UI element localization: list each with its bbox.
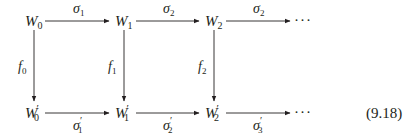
label-sigma1-prime: σ′1: [73, 119, 83, 135]
label-sigma2-repeat: σ2: [253, 2, 264, 18]
label-sigma2-prime: σ′2: [163, 119, 173, 135]
label-sigma2: σ2: [163, 2, 174, 18]
node-W2: W2: [205, 14, 223, 31]
node-W0: W0: [25, 14, 43, 31]
continuation-dots-top: ···: [294, 13, 312, 28]
label-f0: f0: [18, 60, 26, 76]
label-sigma3-prime: σ′3: [253, 119, 263, 135]
node-W1: W1: [115, 14, 133, 31]
continuation-dots-bottom: ···: [294, 105, 312, 120]
node-W1-prime: W′1: [115, 106, 129, 123]
node-W0-prime: W′0: [25, 106, 39, 123]
label-sigma1: σ1: [73, 2, 84, 18]
label-f2: f2: [198, 60, 206, 76]
equation-number: (9.18): [366, 106, 402, 121]
node-W2-prime: W′2: [205, 106, 219, 123]
label-f1: f1: [108, 60, 116, 76]
